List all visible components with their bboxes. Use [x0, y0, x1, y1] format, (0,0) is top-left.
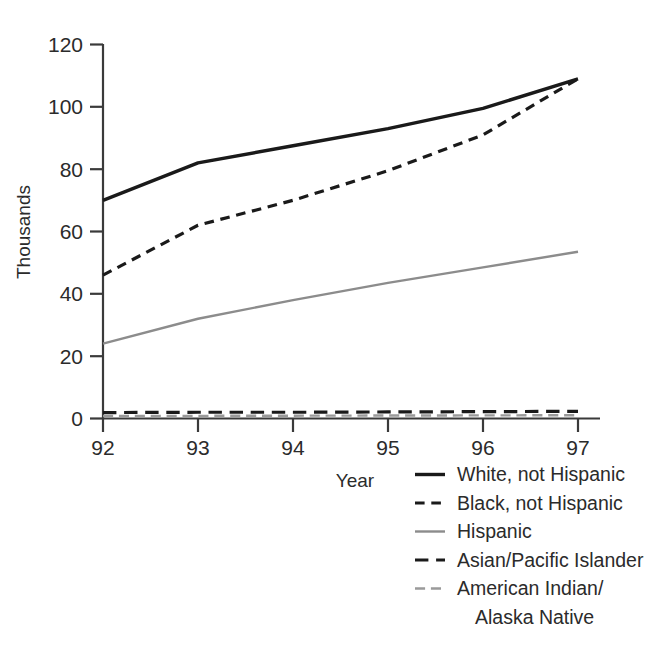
y-tick-label-80: 80 [60, 158, 83, 181]
y-axis-title: Thousands [13, 185, 34, 279]
y-tick-label-60: 60 [60, 220, 83, 243]
legend-label-4: American Indian/ [457, 577, 604, 599]
x-tick-label-92: 92 [91, 436, 114, 459]
x-tick-label-96: 96 [471, 436, 494, 459]
x-tick-label-95: 95 [376, 436, 399, 459]
y-tick-label-40: 40 [60, 282, 83, 305]
series-line-3 [103, 411, 578, 412]
x-tick-label-97: 97 [566, 436, 589, 459]
y-tick-label-120: 120 [48, 33, 83, 56]
legend-label-0: White, not Hispanic [457, 463, 625, 485]
y-tick-label-100: 100 [48, 95, 83, 118]
legend-label-4-line2: Alaska Native [475, 606, 594, 628]
x-tick-label-93: 93 [186, 436, 209, 459]
legend-label-1: Black, not Hispanic [457, 492, 623, 514]
line-chart-svg: 0 20 40 60 80 100 120 92 93 94 95 96 97 … [0, 0, 670, 655]
legend-label-3: Asian/Pacific Islander [457, 549, 644, 571]
y-tick-label-20: 20 [60, 345, 83, 368]
x-axis-title: Year [336, 470, 375, 491]
x-tick-label-94: 94 [281, 436, 305, 459]
chart-figure: 0 20 40 60 80 100 120 92 93 94 95 96 97 … [0, 0, 670, 655]
legend-label-2: Hispanic [457, 520, 532, 542]
y-tick-label-0: 0 [71, 407, 83, 430]
